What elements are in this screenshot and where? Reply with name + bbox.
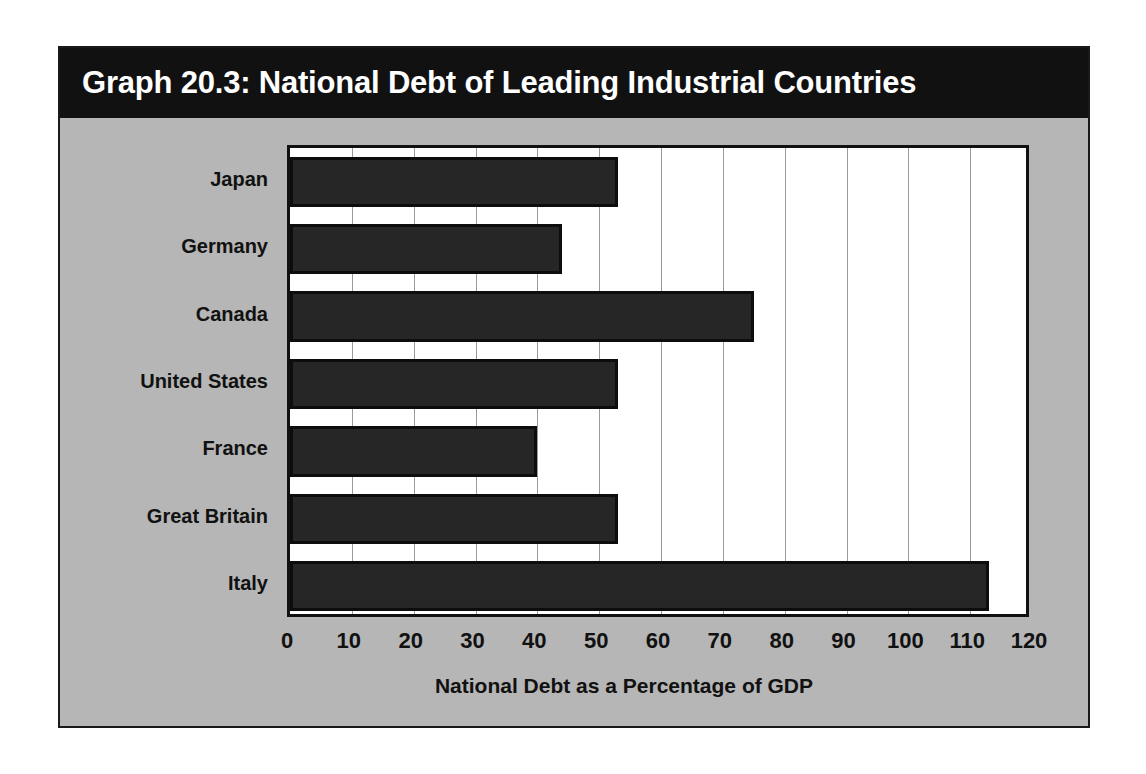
bar-row bbox=[290, 561, 1026, 611]
category-label-france: France bbox=[202, 438, 268, 458]
bar-france bbox=[290, 426, 537, 476]
x-tick-label-90: 90 bbox=[831, 628, 855, 654]
x-axis-title: National Debt as a Percentage of GDP bbox=[60, 674, 1088, 698]
category-label-canada: Canada bbox=[196, 304, 268, 324]
bar-row bbox=[290, 157, 1026, 207]
x-tick-label-110: 110 bbox=[949, 628, 985, 654]
x-tick-label-10: 10 bbox=[337, 628, 361, 654]
x-tick-label-70: 70 bbox=[708, 628, 732, 654]
category-label-germany: Germany bbox=[181, 236, 268, 256]
x-tick-label-80: 80 bbox=[769, 628, 793, 654]
x-tick-label-120: 120 bbox=[1011, 628, 1048, 654]
x-tick-label-50: 50 bbox=[584, 628, 608, 654]
bar-canada bbox=[290, 291, 754, 341]
bar-row bbox=[290, 494, 1026, 544]
plot-wrapper bbox=[287, 145, 1029, 617]
bar-row bbox=[290, 224, 1026, 274]
plot-area bbox=[287, 145, 1029, 617]
bar-germany bbox=[290, 224, 562, 274]
bar-united-states bbox=[290, 359, 618, 409]
category-label-japan: Japan bbox=[210, 169, 268, 189]
category-label-united-states: United States bbox=[140, 371, 268, 391]
bar-row bbox=[290, 426, 1026, 476]
chart-figure: Graph 20.3: National Debt of Leading Ind… bbox=[58, 46, 1090, 728]
x-tick-label-60: 60 bbox=[646, 628, 670, 654]
x-tick-label-0: 0 bbox=[281, 628, 293, 654]
x-tick-label-20: 20 bbox=[398, 628, 422, 654]
bar-italy bbox=[290, 561, 989, 611]
chart-title: Graph 20.3: National Debt of Leading Ind… bbox=[60, 65, 916, 101]
bar-row bbox=[290, 291, 1026, 341]
chart-title-bar: Graph 20.3: National Debt of Leading Ind… bbox=[60, 48, 1088, 118]
x-tick-label-100: 100 bbox=[887, 628, 924, 654]
bar-row bbox=[290, 359, 1026, 409]
bar-great-britain bbox=[290, 494, 618, 544]
x-tick-label-40: 40 bbox=[522, 628, 546, 654]
bar-japan bbox=[290, 157, 618, 207]
category-label-great-britain: Great Britain bbox=[147, 506, 268, 526]
category-label-italy: Italy bbox=[228, 573, 268, 593]
chart-body: JapanGermanyCanadaUnited StatesFranceGre… bbox=[60, 118, 1088, 726]
value-axis-tick-labels: 0102030405060708090100110120 bbox=[287, 628, 1029, 658]
category-axis-labels: JapanGermanyCanadaUnited StatesFranceGre… bbox=[60, 145, 280, 617]
x-tick-label-30: 30 bbox=[460, 628, 484, 654]
